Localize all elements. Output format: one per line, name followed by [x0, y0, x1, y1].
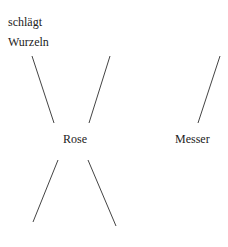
line-upper-right	[198, 56, 220, 123]
line-lower-right	[88, 160, 116, 226]
line-upper-middle	[89, 56, 110, 123]
line-upper-left	[32, 56, 54, 123]
connector-lines	[0, 0, 228, 247]
line-lower-left	[33, 160, 58, 222]
